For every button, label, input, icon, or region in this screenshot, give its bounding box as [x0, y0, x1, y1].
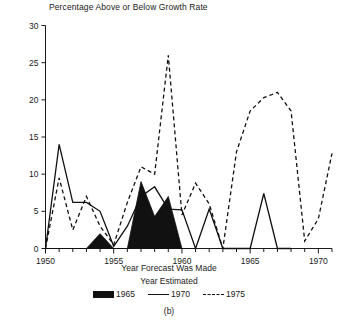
legend-title: Year Estimated — [0, 276, 338, 286]
legend-swatch-dashed-icon — [203, 290, 224, 299]
x-axis-label: Year Forecast Was Made — [0, 263, 338, 273]
y-tick-label: 0 — [34, 244, 39, 254]
legend-item-1965: 1965 — [93, 289, 135, 299]
y-axis: 051015202530 — [29, 21, 45, 254]
series-area-1965 — [46, 182, 196, 249]
y-tick-label: 30 — [29, 21, 39, 31]
y-tick-label: 15 — [29, 132, 39, 142]
legend-item-1970: 1970 — [148, 289, 190, 299]
panel-label: (b) — [0, 306, 338, 316]
y-tick-label: 25 — [29, 58, 39, 68]
y-tick-label: 5 — [34, 206, 39, 216]
legend: 1965 1970 1975 — [0, 289, 338, 299]
legend-label: 1975 — [226, 289, 245, 299]
y-tick-label: 10 — [29, 169, 39, 179]
series-line-1975 — [46, 55, 333, 248]
series-layer — [46, 55, 333, 248]
legend-label: 1965 — [116, 289, 135, 299]
chart-figure: Percentage Above or Below Growth Rate 05… — [0, 0, 338, 325]
legend-swatch-solid-icon — [148, 290, 169, 299]
legend-swatch-fill-icon — [93, 291, 114, 298]
y-tick-label: 20 — [29, 95, 39, 105]
legend-item-1975: 1975 — [203, 289, 245, 299]
legend-label: 1970 — [171, 289, 190, 299]
